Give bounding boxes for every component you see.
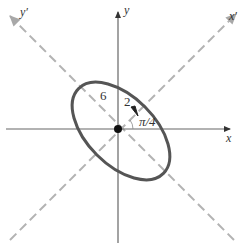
rotation-angle-label: π/4 [139, 114, 156, 129]
center-point [114, 125, 122, 133]
semi-major-label: 6 [100, 88, 107, 103]
x-prime-axis-label: x′ [228, 9, 237, 23]
x-prime-axis [10, 14, 236, 240]
y-axis-label: y [123, 3, 130, 17]
x-axis-label: x [225, 131, 232, 145]
rotation-arc [130, 120, 133, 129]
y-prime-axis-label: y′ [19, 5, 28, 19]
semi-minor-label: 2 [124, 94, 131, 109]
rotated-ellipse-diagram: x y x′ y′ 6 2 π/4 [0, 0, 248, 252]
